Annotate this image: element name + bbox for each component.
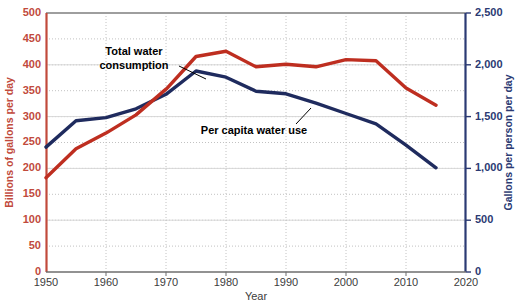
- right-tick-500: 500: [475, 213, 493, 225]
- total-water-consumption-label-line1: Total water: [105, 45, 163, 57]
- x-tick-2020: 2020: [454, 276, 478, 288]
- left-tick-50: 50: [29, 239, 41, 251]
- left-tick-450: 450: [23, 32, 41, 44]
- left-tick-100: 100: [23, 213, 41, 225]
- x-axis-title: Year: [245, 290, 268, 302]
- per-capita-water-use-label: Per capita water use: [201, 124, 307, 136]
- right-tick-marks: [466, 13, 471, 272]
- left-tick-500: 500: [23, 6, 41, 18]
- chart-svg: 0 50 100 150 200 250 300 350 400 450 500…: [0, 0, 521, 306]
- x-tick-1960: 1960: [94, 276, 118, 288]
- x-tick-1950: 1950: [34, 276, 58, 288]
- left-tick-350: 350: [23, 84, 41, 96]
- left-tick-250: 250: [23, 135, 41, 147]
- x-tick-1990: 1990: [274, 276, 298, 288]
- left-tick-300: 300: [23, 110, 41, 122]
- total-water-consumption-label-line2: consumption: [99, 59, 168, 71]
- x-tick-1970: 1970: [154, 276, 178, 288]
- right-tick-2500: 2,500: [475, 6, 503, 18]
- x-tick-1980: 1980: [214, 276, 238, 288]
- left-tick-150: 150: [23, 187, 41, 199]
- left-tick-200: 200: [23, 161, 41, 173]
- right-axis-title: Gallons per person per day: [502, 74, 514, 210]
- right-tick-2000: 2,000: [475, 58, 503, 70]
- x-tick-2000: 2000: [334, 276, 358, 288]
- x-tick-2010: 2010: [394, 276, 418, 288]
- left-axis-title: Billions of gallons per day: [3, 77, 15, 208]
- right-tick-1500: 1,500: [475, 110, 503, 122]
- water-use-line-chart: 0 50 100 150 200 250 300 350 400 450 500…: [0, 0, 521, 306]
- right-tick-1000: 1,000: [475, 161, 503, 173]
- left-tick-400: 400: [23, 58, 41, 70]
